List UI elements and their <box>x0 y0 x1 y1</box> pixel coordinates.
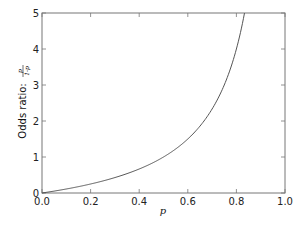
x-tick-label: 0.8 <box>228 196 244 207</box>
svg-text:1-p: 1-p <box>23 66 31 76</box>
y-tick-label: 4 <box>33 44 39 55</box>
plot-area <box>42 13 285 193</box>
x-axis-label: p <box>160 205 167 216</box>
y-axis-label: Odds ratio: p 1-p <box>16 65 32 139</box>
y-tick-label: 1 <box>33 152 39 163</box>
y-tick-label: 2 <box>33 116 39 127</box>
x-tick-label: 0.2 <box>83 196 99 207</box>
y-tick-label: 5 <box>33 8 39 19</box>
tick-marks <box>42 13 285 193</box>
y-tick-labels: 012345 <box>33 8 39 199</box>
x-tick-label: 0.6 <box>180 196 196 207</box>
odds-ratio-curve <box>42 13 244 193</box>
x-tick-label: 1.0 <box>277 196 293 207</box>
y-tick-label: 0 <box>33 188 39 199</box>
odds-ratio-chart: 0.00.20.40.60.81.0 012345 p Odds ratio: … <box>0 0 308 225</box>
svg-text:Odds ratio:: Odds ratio: <box>17 83 28 138</box>
y-tick-label: 3 <box>33 80 39 91</box>
plot-frame <box>42 13 285 193</box>
x-tick-label: 0.4 <box>131 196 147 207</box>
